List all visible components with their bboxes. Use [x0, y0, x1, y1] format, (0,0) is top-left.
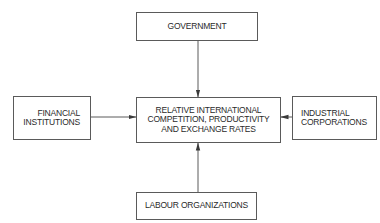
node-industrial-line-2: CORPORATIONS	[301, 118, 367, 128]
node-center: RELATIVE INTERNATIONAL COMPETITION, PROD…	[136, 97, 281, 143]
node-center-line-3: AND EXCHANGE RATES	[147, 125, 269, 135]
node-financial-line-2: INSTITUTIONS	[23, 118, 80, 128]
node-industrial: INDUSTRIAL CORPORATIONS	[292, 96, 377, 140]
node-financial: FINANCIAL INSTITUTIONS	[13, 96, 91, 140]
node-government: GOVERNMENT	[136, 12, 258, 41]
node-labour-label: LABOUR ORGANIZATIONS	[145, 201, 248, 211]
node-labour: LABOUR ORGANIZATIONS	[136, 192, 257, 220]
node-government-label: GOVERNMENT	[168, 22, 227, 32]
